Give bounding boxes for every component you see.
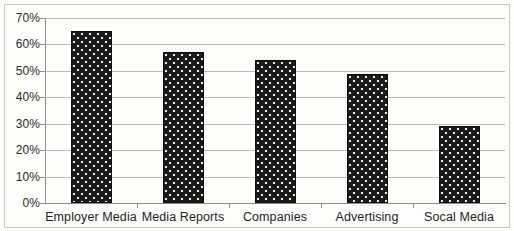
x-axis-label-group: Employer MediaMedia ReportsCompaniesAdve…: [45, 207, 506, 229]
y-axis-tick-mark: [40, 97, 45, 98]
page-frame-right-border: [509, 4, 510, 228]
x-axis-category-label: Advertising: [321, 207, 413, 227]
y-axis-tick-label: 50%: [2, 65, 40, 77]
x-axis-category-label: Media Reports: [137, 207, 229, 227]
x-axis-line: [45, 203, 506, 204]
bar: [439, 126, 480, 203]
y-axis-tick-mark: [40, 18, 45, 19]
x-axis-tick-mark: [229, 203, 230, 208]
y-axis-tick-label: 60%: [2, 38, 40, 50]
y-axis-tick-label: 40%: [2, 91, 40, 103]
gridline: [45, 44, 505, 45]
plot-area: [45, 18, 505, 203]
bar-chart-figure: 0%10%20%30%40%50%60%70% Employer MediaMe…: [0, 0, 514, 231]
x-axis-category-label: Socal Media: [413, 207, 505, 227]
gridline: [45, 18, 505, 19]
page-frame-top-border: [4, 4, 510, 5]
bar: [255, 60, 296, 203]
y-axis-tick-mark: [40, 71, 45, 72]
x-axis-tick-mark: [321, 203, 322, 208]
y-axis-tick-mark: [40, 203, 45, 204]
y-axis-tick-mark: [40, 177, 45, 178]
x-axis-category-label: Companies: [229, 207, 321, 227]
y-axis-label-group: 0%10%20%30%40%50%60%70%: [0, 0, 40, 231]
y-axis-tick-label: 20%: [2, 144, 40, 156]
bar: [163, 52, 204, 203]
y-axis-tick-mark: [40, 150, 45, 151]
bar: [71, 31, 112, 203]
y-axis-tick-label: 0%: [2, 197, 40, 209]
x-axis-tick-mark: [413, 203, 414, 208]
x-axis-tick-mark: [137, 203, 138, 208]
y-axis-tick-label: 10%: [2, 171, 40, 183]
y-axis-tick-label: 70%: [2, 12, 40, 24]
bar: [347, 74, 388, 204]
x-axis-category-label: Employer Media: [45, 207, 137, 227]
y-axis-tick-label: 30%: [2, 118, 40, 130]
y-axis-tick-mark: [40, 124, 45, 125]
y-axis-tick-mark: [40, 44, 45, 45]
